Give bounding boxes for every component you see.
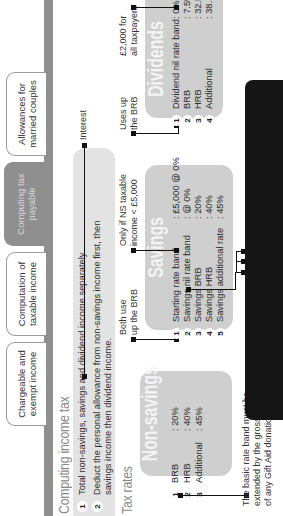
connector-line (133, 339, 177, 340)
step-2: 2Deduct the personal allowance from non-… (92, 221, 103, 512)
row-label: Savings additional rate (215, 219, 227, 322)
both-use-brb-1: Both use (118, 299, 129, 335)
step-number: 2 (92, 501, 103, 512)
tab-label: Chargeable and (16, 350, 27, 418)
row-number: 2 (182, 115, 193, 126)
connector-line (133, 133, 179, 134)
page: Chargeable andexempt income Computation … (0, 0, 283, 516)
tab-label: Allowances for (16, 80, 27, 148)
row-label: Savings nil rate band (182, 219, 194, 322)
row-value: : 38.1% (204, 0, 214, 19)
connector-line (133, 7, 175, 8)
tab-allowances-married-couples[interactable]: Allowances formarried couples (6, 72, 46, 156)
both-use-brb-2: up the BRB (129, 289, 140, 335)
only-if-ns-1: Only if NS taxable (118, 174, 129, 246)
connector-line (188, 289, 236, 290)
row-number: 4 (204, 328, 215, 339)
dividends-row: 4Additional: 38.1% (204, 0, 216, 126)
row-value: : 7.5% (182, 0, 192, 19)
row-value: : 20% (170, 407, 180, 431)
non-savings-row: 2HRB: 40% (182, 407, 194, 500)
row-number: 5 (215, 328, 226, 339)
interest-label: Interest (78, 110, 89, 140)
row-number: 4 (204, 115, 215, 126)
connector-line (180, 495, 246, 496)
only-if-ns-2: income < £5,000 (129, 179, 140, 246)
step-1: 1Total non-savings, savings and dividend… (77, 251, 88, 512)
row-value: : £5,000 @ 0% (171, 157, 181, 219)
dividends-row: 2BRB: 7.5% (182, 0, 194, 126)
savings-row: 2Savings nil rate band: @ 0% (182, 188, 194, 339)
step-text: Total non-savings, savings and dividend … (77, 251, 87, 495)
step-text: Deduct the personal allowance from non-s… (92, 221, 102, 495)
tab-computation-taxable-income[interactable]: Computation oftaxable income (6, 252, 46, 336)
gift-aid-note-3: of any Gift Aid donation. (263, 410, 274, 506)
row-number: 1 (171, 328, 182, 339)
row-label: HRB (182, 431, 194, 483)
tab-label: exempt income (27, 350, 38, 418)
connector-node (174, 248, 179, 253)
row-label: Savings BRB (193, 219, 205, 322)
step-number: 1 (77, 501, 88, 512)
row-label: Additional (204, 19, 216, 109)
dark-footer-box (245, 80, 283, 420)
connector-line (236, 251, 237, 273)
dividend-allowance-1: £2,000 for (118, 15, 129, 56)
uses-up-brb-2: the BRB (129, 96, 140, 130)
non-savings-row: 1BRB: 20% (170, 407, 182, 500)
connector-line (84, 148, 85, 377)
row-label: BRB (170, 431, 182, 483)
savings-row: 3Savings BRB: 20% (193, 195, 205, 339)
tab-computing-tax-payable[interactable]: Computing taxpayable (4, 162, 46, 246)
savings-row: 5Savings additional rate: 45% (215, 195, 227, 339)
savings-row: 4Savings HRB: 40% (204, 195, 216, 339)
row-number: 1 (171, 115, 182, 126)
row-label: Starting rate band (171, 219, 183, 322)
row-value: : 20% (193, 195, 203, 219)
connector-line (235, 272, 236, 290)
row-number: 2 (182, 328, 193, 339)
dividends-row: 1Dividend nil rate band: 0% (171, 0, 183, 126)
row-value: : @ 0% (182, 188, 192, 219)
row-value: : 45% (194, 407, 204, 431)
connector-node (82, 143, 87, 148)
row-label: BRB (182, 19, 194, 109)
section-title: Computing income tax (55, 397, 72, 514)
tab-label: married couples (27, 80, 38, 148)
row-value: : 32.5% (193, 0, 203, 19)
savings-title: Savings (143, 188, 169, 307)
row-value: : 45% (215, 195, 225, 219)
tab-label: Computation of (16, 262, 27, 326)
dividends-title: Dividends (143, 17, 169, 102)
row-number: 3 (193, 115, 204, 126)
row-label: Additional (194, 431, 206, 483)
row-value: : 40% (204, 195, 214, 219)
non-savings-row: 3Additional: 45% (194, 407, 206, 500)
row-label: Dividend nil rate band (171, 19, 183, 109)
row-label: Savings HRB (204, 219, 216, 322)
tab-label: Computing tax (15, 173, 26, 234)
row-number: 3 (193, 328, 204, 339)
step-2-cont: savings income then dividend income. (103, 338, 114, 495)
tab-label: taxable income (27, 262, 38, 326)
connector-line (133, 250, 175, 251)
connector-node (174, 5, 179, 10)
dividends-row: 3HRB: 32.5% (193, 0, 205, 126)
uses-up-brb-1: Uses up (118, 97, 129, 130)
non-savings-title: Non-savings (137, 386, 163, 462)
row-value: : 40% (182, 407, 192, 431)
tax-rates-title: Tax rates (118, 466, 135, 514)
row-label: HRB (193, 19, 205, 109)
dividend-allowance-2: all taxpayers (129, 5, 140, 56)
tab-label: payable (26, 173, 37, 234)
tab-chargeable-exempt-income[interactable]: Chargeable andexempt income (6, 342, 46, 426)
